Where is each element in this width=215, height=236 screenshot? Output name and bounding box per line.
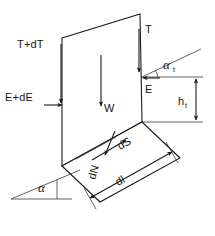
label-alpha-t: α t	[163, 57, 175, 73]
label-alpha-t-subscript: t	[173, 66, 175, 73]
diagram-canvas: T T+dT E E+dE W dS dN dl α α t h t	[0, 0, 215, 236]
label-h-t: h t	[178, 95, 187, 109]
label-E-plus-dE: E+dE	[5, 91, 33, 103]
slice-free-body-diagram: T T+dT E E+dE W dS dN dl α α t h t	[0, 0, 215, 236]
label-T: T	[145, 23, 152, 35]
label-alpha: α	[38, 180, 46, 195]
label-T-plus-dT: T+dT	[17, 38, 44, 50]
label-h-t-base: h	[178, 95, 184, 107]
angle-arc-alpha-t	[155, 70, 158, 77]
slope-angle-upper-ray	[11, 170, 80, 199]
label-h-t-subscript: t	[185, 102, 187, 109]
label-alpha-t-base: α	[163, 57, 171, 72]
label-E: E	[145, 83, 153, 95]
slope-angle-wedge	[11, 170, 80, 199]
label-W: W	[104, 102, 115, 114]
ground-surface-line	[142, 49, 201, 77]
